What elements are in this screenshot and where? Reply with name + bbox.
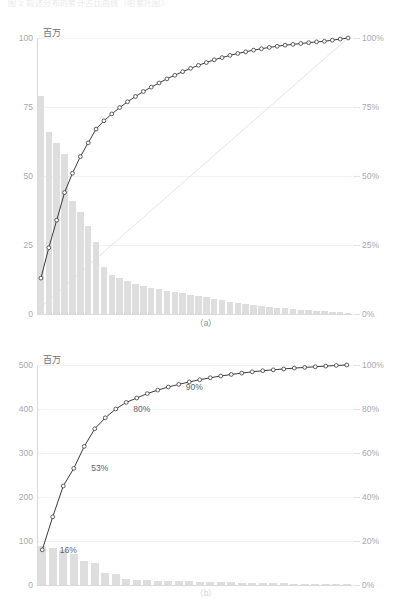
- curve-marker: [55, 218, 59, 222]
- curve-marker: [78, 155, 82, 159]
- figure-a-unit-label: 百万: [43, 28, 61, 38]
- y-axis-tick: 75: [3, 103, 33, 112]
- secondary-axis-tick: 20%: [362, 537, 379, 546]
- curve-marker: [236, 52, 240, 56]
- y-axis-tick: 25: [3, 241, 33, 250]
- curve-marker: [103, 416, 107, 420]
- curve-marker: [86, 141, 90, 145]
- curve-marker: [345, 363, 349, 367]
- curve-marker: [93, 427, 97, 431]
- figure-b: 百万 （b） 01002003004005000%20%40%60%80%100…: [0, 345, 412, 599]
- secondary-axis-tick: 25%: [362, 241, 379, 250]
- figure-b-plot: [37, 365, 352, 585]
- curve-marker: [303, 366, 307, 370]
- curve-marker: [149, 85, 153, 89]
- curve-marker: [126, 100, 130, 104]
- curve-marker: [228, 53, 232, 57]
- curve-marker: [244, 50, 248, 54]
- curve-marker: [261, 369, 265, 373]
- y-axis-tick: 300: [3, 449, 33, 458]
- curve-marker: [135, 396, 139, 400]
- y-axis-tick: 50: [3, 172, 33, 181]
- curve-overlay: [37, 365, 356, 589]
- secondary-axis-tick: 100%: [362, 361, 384, 370]
- secondary-axis-tick: 0%: [362, 310, 374, 319]
- curve-marker: [338, 37, 342, 41]
- curve-marker: [324, 364, 328, 368]
- secondary-axis-tick: 0%: [362, 581, 374, 590]
- curve-marker: [252, 48, 256, 52]
- curve-marker: [315, 40, 319, 44]
- curve-marker: [208, 376, 212, 380]
- curve-marker: [313, 365, 317, 369]
- curve-marker: [61, 484, 65, 488]
- secondary-axis-tick: 75%: [362, 103, 379, 112]
- curve-marker: [283, 43, 287, 47]
- curve-marker: [124, 401, 128, 405]
- curve-marker: [156, 388, 160, 392]
- curve-marker: [39, 276, 43, 280]
- secondary-axis-tick: 100%: [362, 34, 384, 43]
- curve-marker: [157, 81, 161, 85]
- curve-marker: [110, 112, 114, 116]
- curve-marker: [145, 392, 149, 396]
- cumulative-curve: [42, 365, 347, 550]
- data-label: 80%: [133, 405, 150, 414]
- curve-marker: [118, 106, 122, 110]
- y-axis-tick: 0: [3, 310, 33, 319]
- curve-marker: [330, 38, 334, 42]
- curve-marker: [82, 445, 86, 449]
- figure-page: 图 2 前述分布的累计占比曲线（帕累托图） 百万 （a） 02550751000…: [0, 0, 412, 599]
- cumulative-curve: [41, 38, 348, 278]
- curve-overlay: [37, 38, 356, 318]
- curve-marker: [166, 385, 170, 389]
- reference-line: [41, 38, 348, 307]
- secondary-axis-tick: 50%: [362, 172, 379, 181]
- curve-marker: [334, 364, 338, 368]
- y-axis-tick: 200: [3, 493, 33, 502]
- curve-marker: [102, 119, 106, 123]
- curve-marker: [177, 382, 181, 386]
- curve-marker: [94, 127, 98, 131]
- curve-marker: [72, 467, 76, 471]
- curve-marker: [229, 373, 233, 377]
- figure-b-caption: （b）: [0, 588, 412, 598]
- data-label: 16%: [60, 546, 77, 555]
- curve-marker: [292, 366, 296, 370]
- curve-marker: [307, 41, 311, 45]
- secondary-axis-tick: 60%: [362, 449, 379, 458]
- figure-a-plot: [37, 38, 352, 314]
- data-label: 53%: [91, 464, 108, 473]
- curve-marker: [323, 39, 327, 43]
- curve-marker: [282, 367, 286, 371]
- curve-marker: [173, 73, 177, 77]
- curve-marker: [267, 45, 271, 49]
- curve-marker: [165, 77, 169, 81]
- curve-marker: [114, 407, 118, 411]
- curve-marker: [275, 44, 279, 48]
- curve-marker: [204, 61, 208, 65]
- curve-marker: [40, 548, 44, 552]
- data-label: 90%: [186, 383, 203, 392]
- curve-marker: [181, 70, 185, 74]
- curve-marker: [250, 370, 254, 374]
- figure-b-unit-label: 百万: [43, 355, 61, 365]
- y-axis-tick: 500: [3, 361, 33, 370]
- secondary-axis-tick: 40%: [362, 493, 379, 502]
- figure-a-caption: （a）: [0, 318, 412, 328]
- y-axis-tick: 400: [3, 405, 33, 414]
- curve-marker: [299, 42, 303, 46]
- curve-marker: [141, 90, 145, 94]
- curve-marker: [51, 515, 55, 519]
- curve-marker: [220, 56, 224, 60]
- y-axis-tick: 0: [3, 581, 33, 590]
- secondary-axis-tick: 80%: [362, 405, 379, 414]
- curve-marker: [219, 374, 223, 378]
- curve-marker: [63, 191, 67, 195]
- curve-marker: [260, 47, 264, 51]
- curve-marker: [212, 58, 216, 62]
- curve-marker: [189, 66, 193, 70]
- curve-marker: [291, 42, 295, 46]
- y-axis-tick: 100: [3, 34, 33, 43]
- curve-marker: [71, 171, 75, 175]
